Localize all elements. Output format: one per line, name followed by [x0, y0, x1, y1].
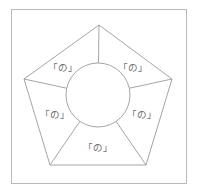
spoke-line-top [98, 25, 99, 63]
sector-label-lower-right: 「の」 [127, 110, 156, 120]
sector-label-bottom: 「の」 [83, 143, 112, 153]
sector-label-lower-left: 「の」 [40, 110, 69, 120]
sector-label-upper-left: 「の」 [48, 63, 77, 73]
diagram-canvas: 「の」「の」「の」「の」「の」 [0, 0, 198, 196]
pentagon-circle-diagram [0, 0, 198, 196]
sector-label-upper-right: 「の」 [118, 63, 147, 73]
